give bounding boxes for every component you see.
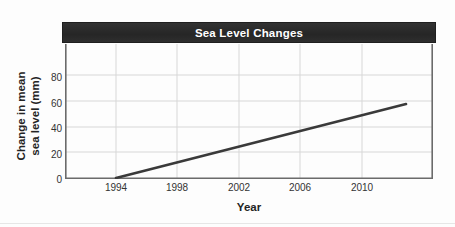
chart-title-bar: Sea Level Changes (62, 22, 436, 43)
horizontal-gridlines (65, 75, 433, 152)
vertical-gridlines (116, 44, 362, 178)
x-tick-label: 2006 (278, 182, 322, 194)
chart-figure: Sea Level Changes Change in mean sea lev… (0, 0, 455, 227)
page-bottom-edge (0, 223, 455, 224)
plot-svg (65, 44, 433, 179)
plot-area (65, 44, 433, 179)
x-tick-label: 1994 (94, 182, 138, 194)
y-tick-label: 80 (40, 73, 62, 83)
x-tick-label: 2002 (217, 182, 261, 194)
y-tick-label: 40 (40, 124, 62, 134)
x-tick-label: 2010 (340, 182, 384, 194)
y-tick-label: 20 (40, 150, 62, 160)
chart-title: Sea Level Changes (195, 27, 303, 39)
x-tick-label: 1998 (155, 182, 199, 194)
y-tick-label: 60 (40, 99, 62, 109)
x-axis-tick-labels: 1994 1998 2002 2006 2010 (0, 182, 455, 196)
y-axis-title-line-1: Change in mean (15, 72, 27, 161)
x-axis-title: Year (65, 201, 433, 213)
